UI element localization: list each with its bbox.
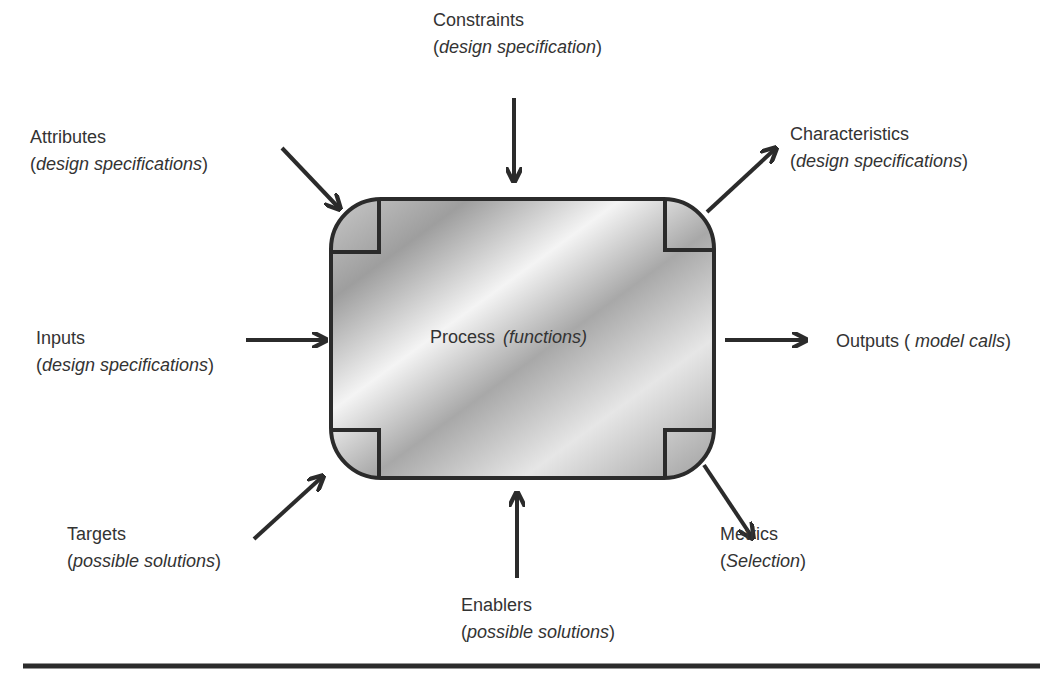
outputs-title: Outputs (	[836, 331, 910, 351]
characteristics-title: Characteristics	[790, 121, 968, 148]
characteristics-detail: design specifications	[796, 151, 962, 171]
enablers-detail: possible solutions	[467, 622, 609, 642]
process-title: Process	[430, 327, 495, 347]
attributes-title: Attributes	[30, 124, 208, 151]
process-diagram: Process(functions) Constraints (design s…	[0, 0, 1064, 678]
targets-title: Targets	[67, 521, 221, 548]
process-detail: (functions)	[503, 327, 587, 347]
metrics-detail: Selection	[726, 551, 800, 571]
enablers-title: Enablers	[461, 592, 615, 619]
constraints-title: Constraints	[433, 7, 602, 34]
attributes-detail: design specifications	[36, 154, 202, 174]
paren-close: )	[962, 151, 968, 171]
paren-close: )	[596, 37, 602, 57]
targets-arrow	[254, 477, 322, 539]
inputs-label: Inputs (design specifications)	[36, 325, 214, 379]
paren-close: )	[215, 551, 221, 571]
paren-close: )	[202, 154, 208, 174]
constraints-detail: design specification	[439, 37, 596, 57]
attributes-label: Attributes (design specifications)	[30, 124, 208, 178]
outputs-detail: model calls	[910, 331, 1005, 351]
enablers-label: Enablers (possible solutions)	[461, 592, 615, 646]
inputs-detail: design specifications	[42, 355, 208, 375]
process-label: Process(functions)	[430, 327, 587, 348]
attributes-arrow	[282, 148, 339, 208]
targets-detail: possible solutions	[73, 551, 215, 571]
targets-label: Targets (possible solutions)	[67, 521, 221, 575]
paren-close: )	[1005, 331, 1011, 351]
inputs-title: Inputs	[36, 325, 214, 352]
characteristics-arrow	[707, 149, 775, 212]
metrics-label: Metrics (Selection)	[720, 521, 806, 575]
paren-close: )	[208, 355, 214, 375]
outputs-label: Outputs ( model calls)	[836, 328, 1011, 355]
paren-close: )	[800, 551, 806, 571]
constraints-label: Constraints (design specification)	[433, 7, 602, 61]
characteristics-label: Characteristics (design specifications)	[790, 121, 968, 175]
metrics-title: Metrics	[720, 521, 806, 548]
paren-close: )	[609, 622, 615, 642]
